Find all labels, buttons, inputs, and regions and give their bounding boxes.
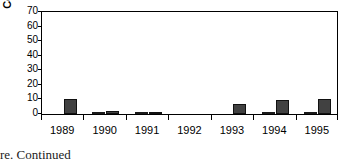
bar-group [84,12,126,114]
figure-container: Cover (%) 010203040506070 19891990199119… [0,0,345,161]
x-tick-label: 1995 [294,124,340,137]
x-tick-mark [296,115,297,120]
x-tick-label: 1992 [167,124,213,137]
bar-series-dark-1994 [276,100,289,114]
y-tick-label: 50 [16,35,38,45]
y-tick-label: 30 [16,64,38,74]
y-tick-label: 60 [16,21,38,31]
x-tick-label: 1993 [209,124,255,137]
bar-series-light-1990 [92,112,105,114]
bar-series-light-1995 [304,112,317,114]
x-tick-mark [337,115,338,120]
x-axis: 1989199019911992199319941995 [41,115,338,145]
y-tick-label: 0 [16,108,38,118]
bar-series-dark-1993 [233,104,246,114]
bar-series-dark-1990 [106,111,119,114]
y-tick-label: 10 [16,93,38,103]
y-tick-label: 70 [16,6,38,16]
y-tick-label: 20 [16,79,38,89]
x-tick-mark [83,115,84,120]
bar-series-dark-1991 [149,112,162,114]
x-tick-mark [41,115,42,120]
x-tick-mark [126,115,127,120]
bar-group [212,12,254,114]
x-tick-mark [168,115,169,120]
x-tick-label: 1994 [251,124,297,137]
bar-group [127,12,169,114]
figure-caption: re. Continued [0,147,71,161]
y-tick-label: 40 [16,50,38,60]
y-axis-tick-labels: 010203040506070 [16,6,38,120]
bar-group [254,12,296,114]
plot-inner [42,12,337,114]
bar-group [169,12,211,114]
x-tick-label: 1991 [124,124,170,137]
bar-series-light-1991 [135,112,148,114]
x-tick-label: 1989 [39,124,85,137]
bar-group [297,12,339,114]
plot-area [41,11,338,115]
x-tick-label: 1990 [82,124,128,137]
bar-series-dark-1989 [64,99,77,114]
x-tick-mark [253,115,254,120]
y-axis-title: Cover (%) [0,0,14,32]
bar-series-dark-1995 [318,99,331,114]
x-tick-mark [211,115,212,120]
bar-series-light-1994 [262,112,275,114]
bar-group [42,12,84,114]
